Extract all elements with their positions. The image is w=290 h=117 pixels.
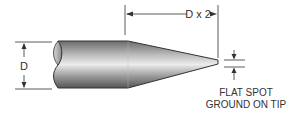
tool-body [54,41,219,88]
arrow-down-icon [232,54,237,60]
arrow-up-icon [22,43,27,49]
diameter-label: D [20,60,28,72]
taper-length-label: D x 2 [185,8,211,20]
arrow-down-icon [22,82,27,88]
note-line-2: GROUND ON TIP [206,99,287,110]
arrow-left-icon [126,12,133,17]
arrow-right-icon [210,12,217,17]
tip-diagram: D D x 2 FLAT SPOT GROUND ON TIP [0,0,290,117]
flat-spot-dimension [224,50,245,80]
diameter-dimension: D [15,42,52,89]
note-line-1: FLAT SPOT [219,87,273,98]
arrow-up-icon [232,68,237,74]
